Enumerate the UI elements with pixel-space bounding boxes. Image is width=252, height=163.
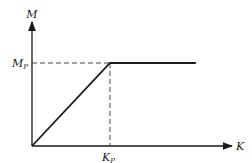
x-axis-label: K: [235, 140, 245, 153]
y-axis-label: M: [25, 8, 38, 21]
mp-label: MP: [11, 57, 28, 71]
moment-curvature-diagram: M K MP KP: [0, 0, 252, 163]
moment-curvature-curve: [32, 63, 196, 146]
kp-label: KP: [101, 151, 115, 163]
